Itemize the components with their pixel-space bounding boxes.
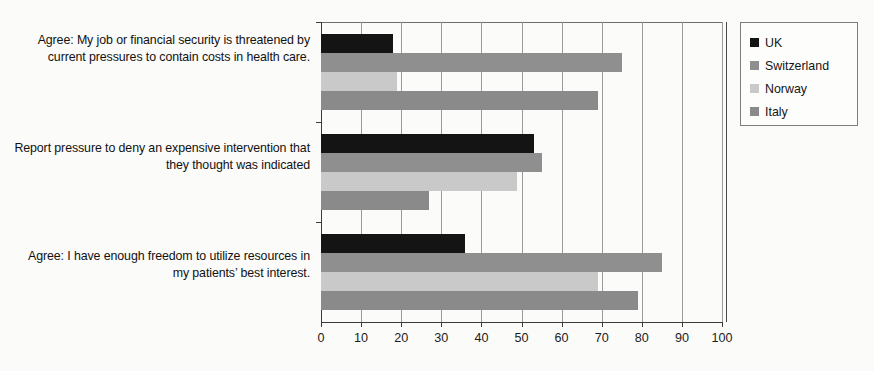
x-axis-tick-label: 70 [595,331,609,345]
legend-item-norway[interactable]: Norway [750,77,857,100]
bar-switzerland [321,253,662,272]
legend-label: Switzerland [765,59,829,73]
x-axis-tick [441,322,442,327]
bar-norway [321,172,517,191]
x-axis-tick-label: 50 [514,331,528,345]
legend-item-switzerland[interactable]: Switzerland [750,54,857,77]
x-axis-tick [361,322,362,327]
legend-swatch-icon [750,38,759,47]
chart-legend: UKSwitzerlandNorwayItaly [740,22,858,126]
category-axis-labels: Agree: My job or financial security is t… [10,22,310,322]
x-axis-tick [722,322,723,327]
bar-italy [321,191,429,210]
bar-italy [321,91,598,110]
plot-area: 0102030405060708090100 [321,22,722,322]
legend-swatch-icon [750,107,759,116]
bar-norway [321,272,598,291]
x-gridline [722,22,723,322]
bar-norway [321,72,397,91]
bar-switzerland [321,53,622,72]
y-axis-tick [316,22,321,23]
x-axis-tick-label: 10 [354,331,368,345]
x-gridline [642,22,643,322]
grouped-bar-chart: Agree: My job or financial security is t… [0,0,874,371]
x-axis-tick-label: 80 [635,331,649,345]
y-axis-tick [316,122,321,123]
bar-uk [321,134,534,153]
category-label: Agree: My job or financial security is t… [10,32,310,65]
legend-swatch-icon [750,84,759,93]
x-axis-tick-label: 90 [675,331,689,345]
x-axis-tick [321,322,322,327]
legend-label: UK [765,36,782,50]
x-axis-tick-label: 100 [711,331,732,345]
x-axis-tick-label: 30 [434,331,448,345]
x-axis-tick [682,322,683,327]
category-label: Agree: I have enough freedom to utilize … [10,248,310,281]
category-label: Report pressure to deny an expensive int… [10,140,310,173]
x-axis-tick [481,322,482,327]
legend-item-italy[interactable]: Italy [750,100,857,123]
x-axis-tick-label: 0 [317,331,324,345]
x-axis-tick [562,322,563,327]
y-axis-tick [316,222,321,223]
legend-label: Italy [765,105,788,119]
bar-uk [321,234,465,253]
x-axis-tick-label: 20 [394,331,408,345]
bar-uk [321,34,393,53]
x-axis-tick-label: 60 [555,331,569,345]
x-axis-tick [642,322,643,327]
legend-separator-line [726,22,727,322]
legend-label: Norway [765,82,807,96]
x-axis-tick [602,322,603,327]
legend-item-uk[interactable]: UK [750,31,857,54]
x-axis-tick [401,322,402,327]
x-axis-tick [522,322,523,327]
x-gridline [682,22,683,322]
bar-switzerland [321,153,542,172]
x-axis-tick-label: 40 [474,331,488,345]
legend-swatch-icon [750,61,759,70]
bar-italy [321,291,638,310]
